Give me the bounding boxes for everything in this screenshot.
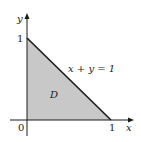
y-tick-label: 1 xyxy=(17,33,23,44)
region-diagram: y 1 0 1 x D x + y = 1 xyxy=(0,0,141,142)
y-axis-arrow-icon xyxy=(25,13,30,19)
y-axis-label: y xyxy=(16,13,23,24)
boundary-equation-label: x + y = 1 xyxy=(68,63,115,74)
x-axis-label: x xyxy=(126,122,132,133)
region-label: D xyxy=(49,89,58,100)
x-tick-label: 1 xyxy=(109,122,115,133)
origin-label: 0 xyxy=(18,122,24,133)
